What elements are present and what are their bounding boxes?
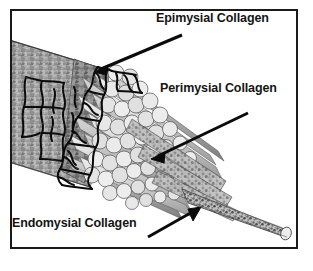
label-perimysial-collagen: Perimysial Collagen (160, 82, 277, 95)
muscle-illustration (12, 11, 296, 247)
single-fiber-tail (182, 189, 293, 241)
arrow-epimysial (94, 35, 182, 75)
figure-root: Epimysial Collagen Perimysial Collagen E… (0, 0, 313, 271)
label-endomysial-collagen: Endomysial Collagen (12, 217, 137, 230)
figure-frame (10, 9, 298, 249)
label-epimysial-collagen: Epimysial Collagen (156, 12, 269, 25)
